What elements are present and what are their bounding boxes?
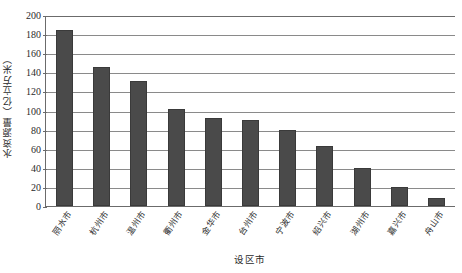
x-axis-tick-label: 嘉兴市 [384,208,409,237]
x-axis-tick-label: 衢州市 [160,208,185,237]
x-axis-title: 设区市 [45,252,455,266]
bar[interactable] [316,146,333,206]
y-axis-title: 水资源量（亿立方米） [0,0,16,210]
y-axis-tick-label: 60 [31,145,41,155]
bar[interactable] [428,198,445,206]
y-axis-tick-label: 20 [31,183,41,193]
bar-slot [46,16,83,206]
bar[interactable] [205,118,222,206]
bar-slot [83,16,120,206]
y-axis-tick-labels: 200180160140120100806040200 [16,16,43,207]
x-axis-tick-label: 宁波市 [272,208,297,237]
y-axis-tick-label: 100 [26,107,41,117]
bar-chart: 水资源量（亿立方米） 200180160140120100806040200 丽… [0,0,462,273]
bar[interactable] [93,67,110,206]
x-axis-tick-label: 台州市 [234,208,259,237]
bar[interactable] [279,130,296,206]
x-axis-tick-label: 湖州市 [346,208,371,237]
y-axis-tick-label: 160 [26,49,41,59]
bar[interactable] [242,120,259,206]
x-axis-tick-label: 杭州市 [85,208,110,237]
y-axis-tick-label: 200 [26,11,41,21]
y-axis-tick-label: 180 [26,30,41,40]
plot-area [45,16,455,207]
bar-slot [306,16,343,206]
x-axis-tick-slot: 嘉兴市 [380,208,417,258]
bar-slot [269,16,306,206]
bar[interactable] [130,81,147,206]
bar[interactable] [56,30,73,206]
y-axis-tick-label: 0 [36,202,41,212]
y-axis-tick-label: 120 [26,87,41,97]
y-axis-tick-label: 140 [26,68,41,78]
x-axis-tick-slot: 衢州市 [157,208,194,258]
bar[interactable] [168,109,185,206]
x-axis-tick-slot: 金华市 [194,208,231,258]
y-axis-tick-label: 80 [31,126,41,136]
bar[interactable] [354,168,371,206]
x-axis-tick-slot: 台州市 [231,208,268,258]
x-axis-tick-slot: 温州市 [120,208,157,258]
x-axis-tick-slot: 舟山市 [418,208,455,258]
bar-slot [195,16,232,206]
bar-slot [158,16,195,206]
x-axis-tick-labels: 丽水市杭州市温州市衢州市金华市台州市宁波市绍兴市湖州市嘉兴市舟山市 [45,208,455,258]
bar-slot [232,16,269,206]
x-axis-tick-label: 金华市 [197,208,222,237]
y-axis-title-text: 水资源量（亿立方米） [1,53,15,158]
bar[interactable] [391,187,408,206]
x-axis-tick-label: 绍兴市 [309,208,334,237]
bar-slot [381,16,418,206]
x-axis-tick-slot: 丽水市 [45,208,82,258]
bar-slot [344,16,381,206]
bar-slot [120,16,157,206]
x-axis-tick-label: 温州市 [123,208,148,237]
x-axis-tick-slot: 湖州市 [343,208,380,258]
x-axis-tick-label: 舟山市 [421,208,446,237]
x-axis-tick-slot: 杭州市 [82,208,119,258]
bar-slot [418,16,455,206]
x-axis-tick-slot: 绍兴市 [306,208,343,258]
bars-layer [46,16,455,206]
x-axis-tick-slot: 宁波市 [269,208,306,258]
y-axis-tick-label: 40 [31,164,41,174]
x-axis-tick-label: 丽水市 [48,208,73,237]
